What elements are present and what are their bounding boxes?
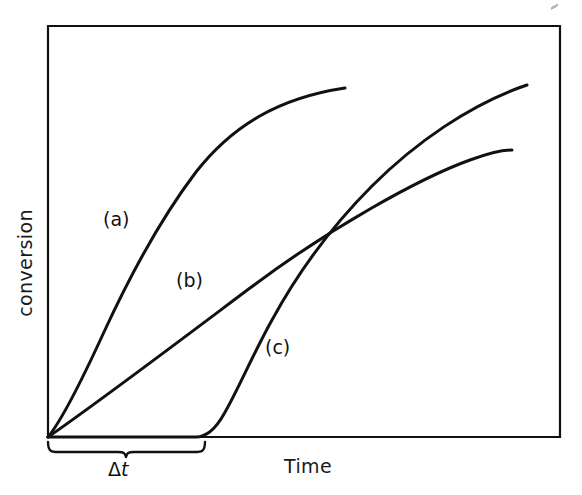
- delta-t-variable: t: [121, 458, 128, 480]
- figure-container: conversion Time (a) (b) (c) Δt: [0, 0, 582, 495]
- curve-label-c: (c): [265, 336, 290, 358]
- delta-t-label: Δt: [108, 458, 128, 480]
- axes-frame: [48, 26, 560, 437]
- chart-plot: [0, 0, 582, 495]
- y-axis-label: conversion: [11, 180, 39, 345]
- curve-label-b: (b): [176, 269, 203, 291]
- x-axis-label: Time: [284, 455, 332, 477]
- curve-b: [48, 150, 512, 437]
- curve-label-a: (a): [103, 208, 129, 230]
- curve-a: [48, 88, 345, 437]
- delta-symbol: Δ: [108, 458, 121, 480]
- induction-period-brace: [48, 442, 205, 457]
- y-axis-label-text: conversion: [14, 209, 36, 317]
- scan-artifact: [551, 2, 558, 11]
